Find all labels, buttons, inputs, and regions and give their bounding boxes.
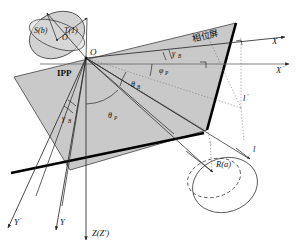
axis-Z-text: Z(Z′): [92, 228, 109, 238]
sphere-center-dot: [56, 39, 58, 41]
label-axis-Y-prime: Y ′: [14, 217, 22, 227]
label-axis-X: X: [271, 36, 278, 46]
arrow-to-l: [236, 148, 250, 159]
label-l: l: [253, 144, 256, 154]
label-l-prime: l ′: [243, 93, 249, 103]
label-origin-O: O: [90, 47, 97, 57]
l-prime-text: l: [243, 93, 246, 103]
axis-Y-text: Y: [60, 217, 66, 227]
axis-X-text: X: [271, 36, 278, 46]
label-S-b: S(b): [34, 26, 48, 35]
theta-p-base: θ: [108, 111, 112, 120]
axis-Xp-text: X: [275, 65, 282, 75]
label-axis-X-prime: X ′: [275, 65, 285, 75]
theta-b-base: θ: [131, 80, 135, 89]
diagram-root: S(b) O T(1) 相位屏 O IPP γ B φ P θ B: [0, 0, 306, 251]
axis-Yp-prime: ′: [20, 217, 22, 223]
label-R-a: R(a): [215, 159, 231, 169]
phi-p-base: φ: [159, 66, 164, 75]
l-prime-mark: ′: [247, 93, 249, 99]
geometry-diagram: S(b) O T(1) 相位屏 O IPP γ B φ P θ B: [0, 0, 306, 251]
source-sphere: [21, 2, 93, 68]
label-T-1: T(1): [64, 26, 78, 35]
axis-Xp-prime: ′: [283, 65, 285, 71]
dotted-vertical-lower: [241, 108, 244, 141]
ray-to-sphere-right: [86, 18, 87, 58]
origin-dot: [85, 57, 88, 60]
label-IPP: IPP: [57, 68, 72, 78]
